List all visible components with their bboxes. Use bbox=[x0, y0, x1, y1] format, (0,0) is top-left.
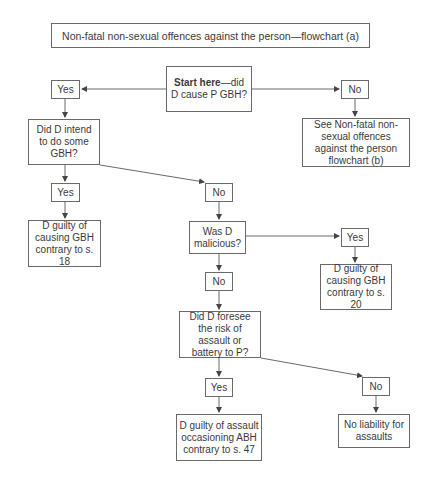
malicious-question: Was D malicious? bbox=[192, 226, 243, 250]
no-node-3: No bbox=[205, 272, 233, 291]
no-liability-node: No liability for assaults bbox=[338, 414, 410, 448]
yes-node-3: Yes bbox=[341, 228, 369, 247]
s20-outcome-text: D guilty of causing GBH contrary to s. 2… bbox=[323, 263, 389, 311]
no-label: No bbox=[370, 381, 383, 393]
yes-node-4: Yes bbox=[205, 378, 233, 397]
start-node: Start here—did D cause P GBH? bbox=[166, 66, 252, 112]
s47-outcome-text: D guilty of assault occasioning ABH cont… bbox=[179, 420, 259, 456]
no-node-1: No bbox=[341, 80, 369, 99]
no-label: No bbox=[349, 84, 362, 96]
start-bold: Start here bbox=[174, 77, 221, 88]
no-node-2: No bbox=[205, 183, 233, 202]
foresee-node: Did D foresee the risk of assault or bat… bbox=[179, 311, 261, 358]
s47-outcome-node: D guilty of assault occasioning ABH cont… bbox=[176, 414, 262, 461]
yes-label: Yes bbox=[211, 382, 227, 394]
intend-question: Did D intend to do some GBH? bbox=[31, 124, 97, 160]
yes-label: Yes bbox=[57, 187, 73, 199]
intend-node: Did D intend to do some GBH? bbox=[28, 119, 100, 165]
see-flowchart-b-text: See Non-fatal non-sexual offences agains… bbox=[305, 119, 407, 167]
yes-label: Yes bbox=[347, 232, 363, 244]
s18-outcome-text: D guilty of causing GBH contrary to s. 1… bbox=[31, 220, 98, 268]
yes-node-1: Yes bbox=[51, 80, 80, 99]
no-node-4: No bbox=[362, 377, 390, 396]
no-label: No bbox=[213, 276, 226, 288]
yes-node-2: Yes bbox=[51, 183, 80, 202]
see-flowchart-b-node: See Non-fatal non-sexual offences agains… bbox=[302, 118, 410, 167]
foresee-question: Did D foresee the risk of assault or bat… bbox=[182, 311, 258, 359]
yes-label: Yes bbox=[57, 84, 73, 96]
s20-outcome-node: D guilty of causing GBH contrary to s. 2… bbox=[320, 264, 392, 310]
no-liability-text: No liability for assaults bbox=[341, 419, 407, 443]
malicious-node: Was D malicious? bbox=[189, 221, 246, 254]
title-text: Non-fatal non-sexual offences against th… bbox=[62, 30, 359, 42]
s18-outcome-node: D guilty of causing GBH contrary to s. 1… bbox=[28, 220, 101, 267]
no-label: No bbox=[213, 187, 226, 199]
flowchart-title: Non-fatal non-sexual offences against th… bbox=[51, 23, 370, 48]
